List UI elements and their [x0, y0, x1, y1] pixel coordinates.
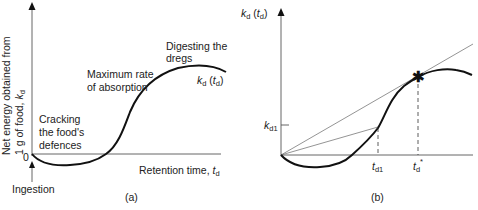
panel-b-caption: (b)	[371, 191, 384, 203]
svg-text:of absorption: of absorption	[87, 81, 148, 93]
panel-a-origin-label: 0	[23, 151, 29, 163]
optimum-star-icon: ✱	[412, 68, 425, 85]
panel-b: ✱ kd (td) kd1 td1 td* (b)	[241, 7, 473, 203]
svg-text:Cracking: Cracking	[39, 113, 81, 125]
annotation-maximum-absorption: Maximum rate of absorption	[87, 68, 154, 93]
svg-text:Digesting the: Digesting the	[166, 40, 227, 52]
panel-a-caption: (a)	[125, 191, 138, 203]
panel-a-y-axis-label-line1: Net energy obtained from	[0, 36, 12, 155]
annotation-cracking-defences: Cracking the food's defences	[39, 113, 84, 151]
panel-b-kd-curve	[281, 69, 472, 167]
panel-a-x-axis-label: Retention time, td	[139, 164, 220, 178]
panel-b-td1-rate-line	[281, 127, 378, 155]
panel-a-y-axis-label-line2: 1 g of food, kd	[13, 90, 27, 155]
panel-a-y-axis-arrow-icon	[29, 2, 36, 10]
panel-b-kd1-label: kd1	[264, 119, 278, 133]
annotation-digesting-dregs: Digesting the dregs	[166, 40, 227, 64]
diagram-canvas: Net energy obtained from 1 g of food, kd…	[0, 0, 478, 210]
svg-text:defences: defences	[39, 139, 82, 151]
panel-a-ingestion-arrow-icon	[29, 161, 35, 168]
panel-a-ingestion-label: Ingestion	[12, 183, 55, 195]
panel-b-y-axis-arrow-icon	[278, 8, 285, 16]
svg-text:the food's: the food's	[39, 126, 84, 138]
panel-b-y-axis-label: kd (td)	[241, 7, 267, 21]
panel-b-optimal-tangent-line	[281, 44, 473, 155]
svg-text:dregs: dregs	[166, 52, 192, 64]
panel-b-td1-label: td1	[372, 160, 383, 174]
panel-a-curve-label: kd (td)	[197, 74, 223, 88]
panel-a: Net energy obtained from 1 g of food, kd…	[0, 2, 227, 203]
svg-text:Maximum rate: Maximum rate	[87, 68, 154, 80]
panel-b-td-star-label: td*	[413, 157, 423, 174]
